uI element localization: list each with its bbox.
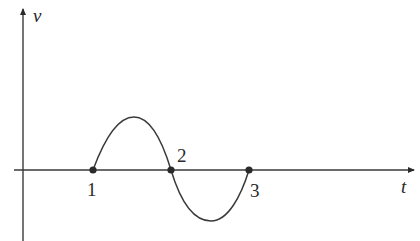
y-axis-label: v bbox=[33, 5, 42, 26]
point-3-label: 3 bbox=[250, 180, 260, 201]
point-2-label: 2 bbox=[177, 145, 187, 166]
point-2-marker bbox=[167, 166, 174, 173]
sine-wave-diagram: v t 1 2 3 bbox=[0, 0, 420, 241]
x-axis-label: t bbox=[401, 176, 407, 197]
point-1-marker bbox=[89, 166, 96, 173]
point-1-label: 1 bbox=[87, 179, 97, 200]
point-3-marker bbox=[245, 166, 252, 173]
